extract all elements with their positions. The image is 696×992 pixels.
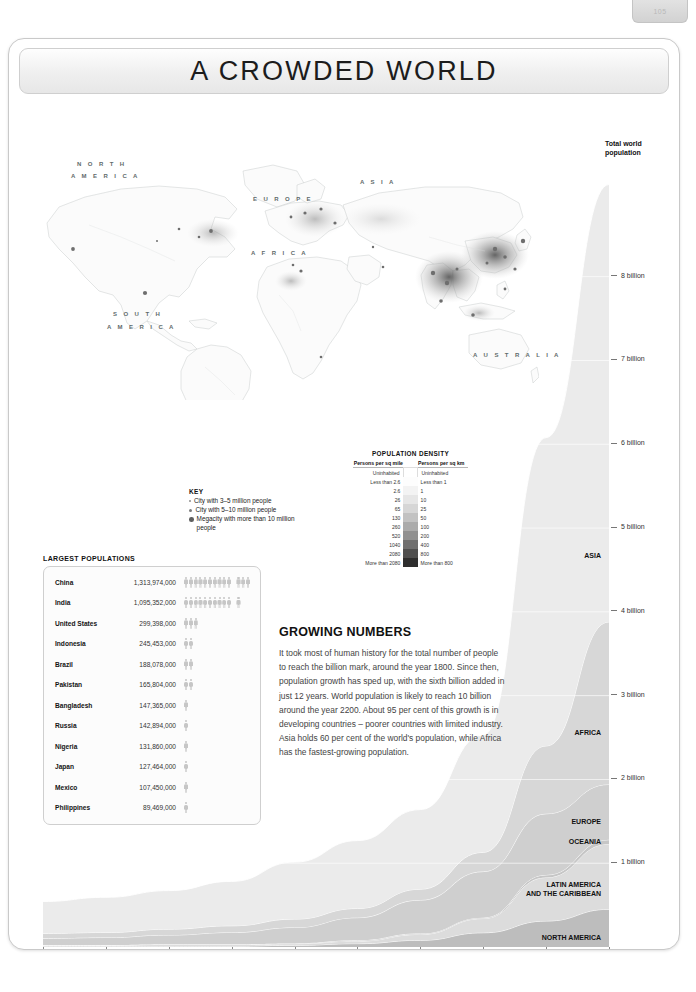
y-axis-tick: 2 billion: [611, 774, 645, 781]
density-value-mile: 2.6: [353, 488, 403, 494]
population-pictogram: [176, 782, 255, 793]
region-label-europe: EUROPE: [571, 817, 601, 826]
table-row: China1,313,974,000: [49, 572, 255, 593]
person-icon: [189, 638, 193, 649]
x-axis-tick: [232, 947, 233, 950]
map-label-north-america: A M E R I C A: [71, 173, 140, 179]
y-axis-tick-label: 5 billion: [621, 523, 645, 530]
density-row: 6525: [353, 504, 468, 513]
density-row: 2610: [353, 495, 468, 504]
country-population: 107,450,000: [118, 784, 176, 791]
person-icon: [184, 679, 188, 690]
person-icon: [194, 577, 198, 588]
person-icon: [184, 802, 188, 813]
y-axis-tick-label: 6 billion: [621, 439, 645, 446]
growing-numbers-title: GROWING NUMBERS: [279, 625, 507, 639]
key-item-label: Megacity with more than 10 million peopl…: [197, 515, 305, 532]
density-swatch: [403, 513, 417, 522]
density-value-mile: Uninhabited: [353, 470, 403, 476]
country-name: Philippines: [49, 804, 118, 811]
population-pictogram: [176, 659, 255, 670]
table-row: Indonesia245,453,000: [49, 634, 255, 655]
key-title: KEY: [189, 488, 319, 495]
person-icon: [241, 577, 245, 588]
country-population: 147,365,000: [118, 702, 176, 709]
person-icon: [184, 741, 188, 752]
person-icon: [184, 761, 188, 772]
person-icon: [184, 720, 188, 731]
density-title: POPULATION DENSITY: [353, 450, 468, 457]
person-icon: [198, 597, 202, 608]
density-swatch: [403, 531, 417, 540]
density-col-mile: Persons per sq mile: [353, 460, 403, 466]
density-value-km: 200: [418, 533, 468, 539]
country-name: Indonesia: [49, 640, 118, 647]
y-axis-tick: 4 billion: [611, 607, 645, 614]
region-label-north-america: NORTH AMERICA: [542, 933, 601, 942]
density-value-km: Uninhabited: [418, 470, 468, 476]
table-row: Brazil188,078,000: [49, 654, 255, 675]
country-population: 165,804,000: [118, 681, 176, 688]
country-population: 1,313,974,000: [118, 579, 176, 586]
density-value-mile: 2080: [353, 551, 403, 557]
page-number-tab: 105: [632, 0, 688, 23]
density-row: 13050: [353, 513, 468, 522]
y-axis-tick: 5 billion: [611, 523, 645, 530]
density-swatch: [403, 522, 417, 531]
density-row: 1040400: [353, 540, 468, 549]
density-swatch: [403, 504, 417, 513]
largest-populations-section: LARGEST POPULATIONS China1,313,974,000In…: [43, 555, 261, 825]
country-name: Russia: [49, 722, 118, 729]
population-pictogram: [176, 802, 255, 813]
person-icon: [217, 597, 221, 608]
person-icon: [236, 597, 240, 608]
map-label-south: S O U T H: [113, 311, 162, 317]
density-value-mile: 1040: [353, 542, 403, 548]
person-icon: [198, 577, 202, 588]
density-value-mile: 260: [353, 524, 403, 530]
density-value-km: More than 800: [418, 560, 468, 566]
country-name: Pakistan: [49, 681, 118, 688]
table-row: Japan127,464,000: [49, 757, 255, 778]
country-name: China: [49, 579, 118, 586]
population-pictogram: [176, 679, 255, 690]
density-value-km: 50: [418, 515, 468, 521]
country-population: 188,078,000: [118, 661, 176, 668]
growing-numbers-body: It took most of human history for the to…: [279, 646, 507, 760]
person-icon: [189, 618, 193, 629]
region-label-asia: ASIA: [584, 551, 601, 560]
population-pictogram: [176, 618, 255, 629]
map-label-south-america: A M E R I C A: [107, 324, 176, 330]
country-population: 89,469,000: [118, 804, 176, 811]
density-row: 2.61: [353, 486, 468, 495]
density-value-km: 10: [418, 497, 468, 503]
map-label-australia: A U S T R A L I A: [473, 352, 561, 358]
country-population: 127,464,000: [118, 763, 176, 770]
largest-populations-title: LARGEST POPULATIONS: [43, 555, 261, 562]
density-row: UninhabitedUninhabited: [353, 468, 468, 477]
density-value-km: 800: [418, 551, 468, 557]
person-icon: [227, 577, 231, 588]
country-name: Japan: [49, 763, 118, 770]
person-icon: [236, 577, 240, 588]
y-axis-tick-label: 7 billion: [621, 355, 645, 362]
country-population: 131,860,000: [118, 743, 176, 750]
population-pictogram: [176, 720, 255, 731]
population-pictogram: [176, 577, 255, 588]
person-icon: [194, 597, 198, 608]
density-swatch: [403, 477, 417, 486]
density-value-km: 1: [418, 488, 468, 494]
density-col-km: Persons per sq km: [418, 460, 468, 466]
density-value-km: 25: [418, 506, 468, 512]
key-item-3-5-million: City with 3–5 million people: [189, 497, 319, 506]
country-population: 299,398,000: [118, 620, 176, 627]
density-swatch: [403, 558, 417, 567]
x-axis-tick: [43, 947, 44, 950]
density-row: 260100: [353, 522, 468, 531]
y-axis-tick-label: 4 billion: [621, 607, 645, 614]
person-icon: [184, 618, 188, 629]
city-medium-icon: [189, 509, 192, 512]
country-population: 245,453,000: [118, 640, 176, 647]
x-axis-tick: [546, 947, 547, 950]
area-band-north-america: [43, 909, 609, 947]
